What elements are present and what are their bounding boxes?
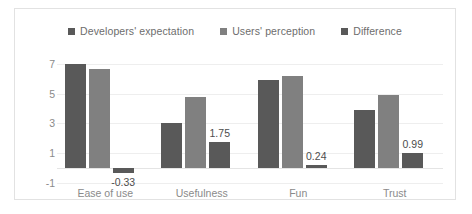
bar: [282, 76, 303, 168]
y-axis: -11357: [29, 55, 55, 183]
bar: [306, 165, 327, 169]
y-axis-tick-label: 7: [29, 58, 55, 70]
y-axis-tick-label: 3: [29, 117, 55, 129]
bar-data-label: 0.24: [306, 150, 326, 162]
x-axis-tick-label: Fun: [289, 187, 307, 199]
y-axis-tick-label: 5: [29, 88, 55, 100]
y-axis-tick-label: 1: [29, 147, 55, 159]
x-axis: Ease of useUsefulnessFunTrust: [57, 187, 443, 203]
bar: [378, 95, 399, 168]
legend-label: Difference: [353, 25, 402, 37]
chart-frame: Developers' expectation Users' perceptio…: [14, 8, 456, 200]
bar-data-label: 0.99: [403, 138, 423, 150]
bar-data-label: 1.75: [210, 127, 230, 139]
bar-group: 0.24: [250, 55, 347, 183]
legend-label: Users' perception: [232, 25, 315, 37]
bar: [402, 153, 423, 168]
legend-item-developers-expectation: Developers' expectation: [68, 25, 194, 37]
bar-group: 0.99: [347, 55, 444, 183]
bar: [161, 123, 182, 168]
x-axis-tick-label: Trust: [383, 187, 407, 199]
legend-item-difference: Difference: [341, 25, 402, 37]
legend-label: Developers' expectation: [80, 25, 194, 37]
bar: [65, 64, 86, 168]
bar: [113, 168, 134, 173]
x-axis-tick-label: Usefulness: [176, 187, 228, 199]
bar: [89, 69, 110, 168]
legend-swatch-icon: [220, 28, 227, 35]
y-axis-tick-label: -1: [29, 177, 55, 189]
legend-swatch-icon: [68, 28, 75, 35]
chart-legend: Developers' expectation Users' perceptio…: [15, 25, 455, 37]
bar-series-container: -0.331.750.240.99: [57, 55, 443, 183]
bar-group: 1.75: [154, 55, 251, 183]
legend-swatch-icon: [341, 28, 348, 35]
bar: [354, 110, 375, 168]
bar: [185, 97, 206, 168]
legend-item-users-perception: Users' perception: [220, 25, 315, 37]
plot-area: -0.331.750.240.99: [57, 55, 443, 183]
bar: [209, 142, 230, 168]
bar: [258, 80, 279, 169]
bar-group: -0.33: [57, 55, 154, 183]
x-axis-tick-label: Ease of use: [78, 187, 133, 199]
